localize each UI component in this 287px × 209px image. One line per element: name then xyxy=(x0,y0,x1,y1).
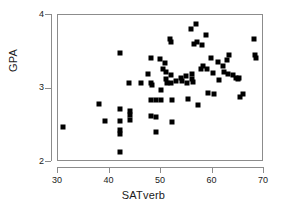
data-point xyxy=(117,51,122,56)
data-point xyxy=(226,52,231,57)
data-point xyxy=(254,56,259,61)
data-point xyxy=(153,115,158,120)
x-axis-tick-label: 60 xyxy=(200,176,224,185)
x-axis-title: SATverb xyxy=(0,190,287,201)
x-axis-tick xyxy=(160,167,161,173)
data-point xyxy=(251,37,256,42)
data-point xyxy=(118,150,123,155)
x-axis-tick xyxy=(263,167,264,173)
data-point xyxy=(200,43,205,48)
data-point xyxy=(185,96,190,101)
data-point xyxy=(194,21,199,26)
data-points-layer xyxy=(58,15,262,160)
y-axis-tick xyxy=(45,88,51,89)
data-point xyxy=(188,26,193,31)
data-point xyxy=(117,107,122,112)
data-point xyxy=(216,78,221,83)
data-point xyxy=(139,80,144,85)
data-point xyxy=(117,118,122,123)
data-point xyxy=(237,76,242,81)
y-axis-tick-label: 3 xyxy=(24,83,44,92)
data-point xyxy=(179,79,184,84)
data-point xyxy=(190,79,195,84)
data-point xyxy=(146,71,151,76)
y-axis-line xyxy=(51,14,52,161)
y-axis-title: GPA xyxy=(8,49,19,72)
data-point xyxy=(211,92,216,97)
data-point xyxy=(174,79,179,84)
x-axis-tick xyxy=(109,167,110,173)
data-point xyxy=(210,71,215,76)
data-point xyxy=(117,132,122,137)
x-axis-tick-label: 40 xyxy=(97,176,121,185)
data-point xyxy=(149,82,154,87)
data-point xyxy=(220,64,225,69)
x-axis-tick-label: 30 xyxy=(45,176,69,185)
data-point xyxy=(169,72,174,77)
data-point xyxy=(97,101,102,106)
data-point xyxy=(127,80,132,85)
data-point xyxy=(209,56,214,61)
data-point xyxy=(195,102,200,107)
data-point xyxy=(241,91,246,96)
y-axis-tick-label: 4 xyxy=(24,10,44,19)
y-axis-tick xyxy=(45,14,51,15)
data-point xyxy=(169,97,174,102)
data-point xyxy=(204,32,209,37)
y-axis-tick-label: 2 xyxy=(24,157,44,166)
data-point xyxy=(61,125,66,130)
data-point xyxy=(170,119,175,124)
y-axis-tick xyxy=(45,161,51,162)
data-point xyxy=(224,57,229,62)
data-point xyxy=(103,118,108,123)
data-point xyxy=(159,87,164,92)
x-axis-tick-label: 50 xyxy=(148,176,172,185)
x-axis-tick xyxy=(212,167,213,173)
plot-area xyxy=(57,14,263,161)
x-axis-tick xyxy=(57,167,58,173)
data-point xyxy=(163,60,168,65)
data-point xyxy=(154,129,159,134)
data-point xyxy=(159,97,164,102)
data-point xyxy=(169,40,174,45)
data-point xyxy=(148,56,153,61)
x-axis-tick-label: 70 xyxy=(251,176,275,185)
scatter-chart-figure: 234 GPA 3040506070 SATverb xyxy=(0,0,287,209)
data-point xyxy=(128,118,133,123)
